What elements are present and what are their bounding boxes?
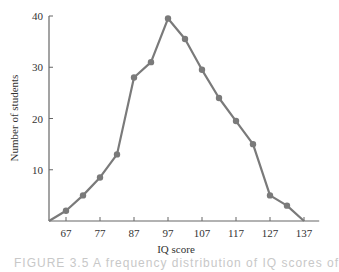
y-axis-title: Number of students bbox=[8, 75, 20, 162]
data-point bbox=[199, 67, 205, 73]
x-tick-label: 67 bbox=[61, 227, 73, 239]
data-point bbox=[80, 192, 86, 198]
x-tick-label: 107 bbox=[194, 227, 211, 239]
x-tick-label: 117 bbox=[228, 227, 245, 239]
x-tick-label: 87 bbox=[129, 227, 141, 239]
data-point bbox=[131, 74, 137, 80]
y-tick-label: 10 bbox=[32, 164, 44, 176]
y-tick-label: 20 bbox=[32, 113, 44, 125]
data-point bbox=[267, 192, 273, 198]
figure-caption: FIGURE 3.5 A frequency distribution of I… bbox=[14, 256, 339, 270]
data-point bbox=[148, 59, 154, 65]
axes bbox=[49, 16, 319, 221]
data-point bbox=[97, 174, 103, 180]
data-markers bbox=[63, 15, 290, 214]
data-point bbox=[216, 95, 222, 101]
series-line bbox=[49, 19, 304, 221]
data-point bbox=[284, 202, 290, 208]
x-axis-title: IQ score bbox=[157, 243, 195, 255]
data-line bbox=[49, 19, 304, 221]
data-point bbox=[250, 141, 256, 147]
data-point bbox=[165, 15, 171, 21]
y-tick-label: 30 bbox=[32, 61, 44, 73]
x-tick-label: 77 bbox=[95, 227, 107, 239]
data-point bbox=[233, 118, 239, 124]
frequency-polygon-chart: 1020304067778797107117127137 IQ score Nu… bbox=[0, 0, 336, 256]
data-point bbox=[63, 208, 69, 214]
data-point bbox=[114, 151, 120, 157]
data-point bbox=[182, 36, 188, 42]
x-tick-label: 137 bbox=[296, 227, 313, 239]
x-tick-label: 97 bbox=[163, 227, 175, 239]
x-tick-label: 127 bbox=[262, 227, 279, 239]
y-tick-label: 40 bbox=[32, 10, 44, 22]
